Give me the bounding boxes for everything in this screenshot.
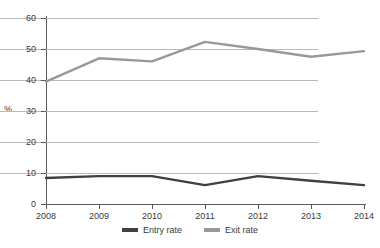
legend-swatch-exit-rate <box>204 228 220 232</box>
series-line-exit-rate <box>46 42 364 82</box>
series-layer <box>0 0 380 248</box>
legend-label-exit-rate: Exit rate <box>225 225 258 235</box>
legend-item-entry-rate: Entry rate <box>122 225 182 235</box>
legend-label-entry-rate: Entry rate <box>143 225 182 235</box>
legend-swatch-entry-rate <box>122 228 138 232</box>
line-chart: % 0102030405060 200820092010201120122013… <box>0 0 380 248</box>
series-line-entry-rate <box>46 176 364 185</box>
legend-item-exit-rate: Exit rate <box>204 225 258 235</box>
chart-legend: Entry rate Exit rate <box>0 225 380 235</box>
